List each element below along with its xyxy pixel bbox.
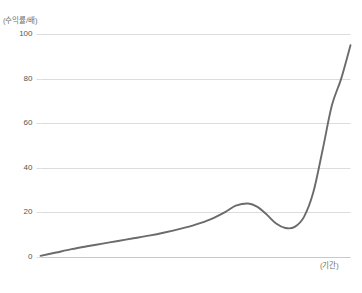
y-tick-label-80: 80 — [7, 74, 33, 83]
y-tick-label-20: 20 — [7, 207, 33, 216]
data-line-series — [41, 45, 351, 256]
chart-container: (수익률/배) (기간) 020406080100 — [0, 0, 362, 293]
plot-area — [0, 0, 362, 293]
y-tick-label-100: 100 — [7, 29, 33, 38]
y-tick-label-40: 40 — [7, 163, 33, 172]
y-tick-marks-group — [37, 35, 41, 258]
y-tick-label-60: 60 — [7, 118, 33, 127]
y-tick-label-0: 0 — [7, 252, 33, 261]
